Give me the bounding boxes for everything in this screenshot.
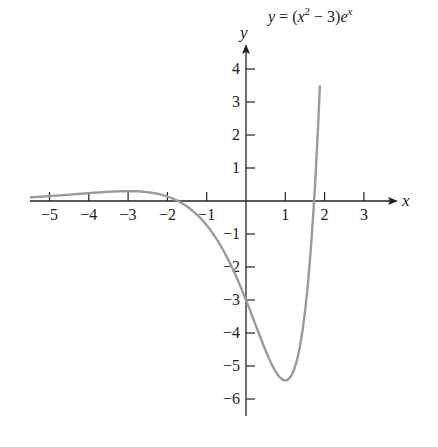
- x-tick-label: −4: [80, 206, 97, 223]
- x-tick-label: −1: [198, 206, 215, 223]
- x-tick-label: −3: [120, 206, 137, 223]
- y-ticks: 4321−1−2−3−4−5−6: [223, 60, 255, 407]
- chart: x y −5−4−3−2−1123 4321−1−2−3−4−5−6 y = (…: [0, 0, 438, 447]
- x-tick-label: −2: [159, 206, 176, 223]
- y-tick-label: 2: [232, 126, 240, 143]
- x-ticks: −5−4−3−2−1123: [41, 192, 368, 223]
- y-tick-label: 3: [232, 93, 240, 110]
- y-tick-label: −6: [223, 390, 240, 407]
- y-tick-label: −4: [223, 324, 240, 341]
- x-tick-label: 3: [360, 206, 368, 223]
- y-axis-label: y: [238, 23, 248, 42]
- x-tick-label: −5: [41, 206, 58, 223]
- y-tick-label: −1: [223, 225, 240, 242]
- y-tick-label: 1: [232, 159, 240, 176]
- x-tick-label: 2: [321, 206, 329, 223]
- y-tick-label: 4: [232, 60, 240, 77]
- x-axis-label: x: [401, 191, 410, 210]
- function-equation-label: y = (x2 − 3)ex: [266, 5, 353, 26]
- function-curve: [30, 85, 320, 380]
- y-tick-label: −3: [223, 291, 240, 308]
- title-sup2: x: [347, 5, 353, 17]
- x-tick-label: 1: [281, 206, 289, 223]
- y-tick-label: −5: [223, 357, 240, 374]
